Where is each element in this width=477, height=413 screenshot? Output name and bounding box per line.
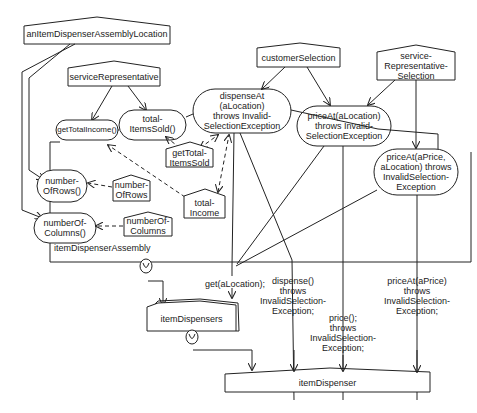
price-at-message: priceAt(aPrice) throws InvalidSelection-… bbox=[384, 276, 450, 316]
total-income-object[interactable]: total- Income bbox=[184, 198, 225, 218]
number-of-columns-object[interactable]: numberOf- Columns bbox=[124, 216, 172, 236]
service-representative-object[interactable]: serviceRepresentative bbox=[68, 72, 160, 82]
assembly-label: itemDispenserAssembly bbox=[54, 243, 151, 253]
location-object[interactable]: anItemDispenserAssemblyLocation bbox=[24, 29, 170, 39]
price-at-location-op[interactable]: priceAt(aLocation) throws Invalid- Selec… bbox=[297, 111, 391, 141]
total-items-sold-op[interactable]: total- ItemsSold() bbox=[119, 114, 186, 134]
dispense-at-op[interactable]: dispenseAt (aLocation) throws Invalid- S… bbox=[193, 91, 291, 131]
number-of-rows-object[interactable]: number- OfRows bbox=[113, 180, 150, 200]
price-at-price-op[interactable]: priceAt(aPrice, aLocation) throws Invali… bbox=[374, 152, 458, 192]
price-message: price(); throws InvalidSelection- Except… bbox=[310, 313, 376, 353]
customer-selection-object[interactable]: customerSelection bbox=[257, 53, 340, 63]
number-of-columns-op[interactable]: numberOf- Columns() bbox=[34, 218, 96, 238]
get-total-income-op[interactable]: getTotalIncome() bbox=[56, 125, 118, 135]
get-total-items-sold-object[interactable]: getTotal- ItemsSold bbox=[166, 148, 213, 168]
service-rep-selection-object[interactable]: service- Representative- Selection bbox=[377, 51, 455, 81]
dispense-message: dispense() throws InvalidSelection- Exce… bbox=[260, 276, 326, 316]
number-of-rows-op[interactable]: number- OfRows() bbox=[37, 176, 87, 196]
item-dispenser-object[interactable]: itemDispenser bbox=[225, 378, 430, 388]
item-dispensers-object[interactable]: itemDispensers bbox=[147, 314, 236, 324]
